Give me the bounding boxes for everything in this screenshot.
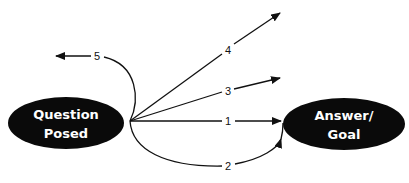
path-2-label: 2 <box>225 160 231 172</box>
node-question-line2: Posed <box>44 126 88 141</box>
node-question-line1: Question <box>33 107 99 122</box>
path-3: 3 <box>130 78 280 121</box>
diagram-canvas: 1 2 3 4 5 Question Posed Answer/ Goal <box>0 0 409 183</box>
path-4-label: 4 <box>225 44 231 56</box>
path-5-label: 5 <box>94 50 100 62</box>
path-3-label: 3 <box>225 85 231 97</box>
node-answer-line2: Goal <box>328 127 361 142</box>
path-4: 4 <box>130 13 280 121</box>
path-2: 2 <box>130 121 283 172</box>
node-answer-goal: Answer/ Goal <box>283 98 405 150</box>
node-answer-line1: Answer/ <box>314 108 373 123</box>
path-1: 1 <box>130 115 281 127</box>
path-1-label: 1 <box>225 115 231 127</box>
node-question-posed: Question Posed <box>8 97 124 149</box>
